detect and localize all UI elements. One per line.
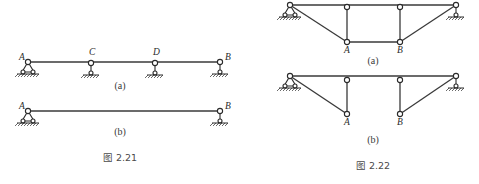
member-B-R bbox=[400, 76, 456, 114]
hinge-node-T1 bbox=[344, 77, 349, 82]
fig-2-22-sub-a: AB(a) bbox=[277, 2, 464, 67]
hinge-node-B bbox=[217, 108, 222, 113]
hinge-node-D bbox=[152, 60, 157, 65]
subfigure-label: (a) bbox=[367, 55, 378, 67]
figure-caption: 图 2.22 bbox=[356, 160, 390, 171]
hinge-node-A bbox=[344, 39, 349, 44]
structural-diagram: ACDB(a)AB(b)图 2.21AB(a)AB(b)图 2.22 bbox=[0, 0, 479, 184]
hinge-node-A bbox=[344, 111, 349, 116]
hinge-node-C bbox=[88, 60, 93, 65]
hinge-node-T2 bbox=[397, 77, 402, 82]
node-label-A: A bbox=[18, 52, 25, 62]
node-label-B: B bbox=[225, 101, 231, 111]
node-label-B: B bbox=[225, 52, 231, 62]
subfigure-label: (a) bbox=[114, 80, 125, 92]
hinge-node-A bbox=[25, 59, 30, 64]
fig-2-21-sub-a: ACDB(a) bbox=[15, 47, 231, 92]
node-label-C: C bbox=[89, 47, 96, 57]
member-B-R bbox=[400, 5, 456, 42]
node-label-A: A bbox=[343, 117, 350, 127]
figure-caption: 图 2.21 bbox=[103, 152, 137, 163]
hinge-node-R bbox=[453, 2, 458, 7]
fig-2-21-sub-b: AB(b) bbox=[15, 101, 231, 138]
hinge-node-L bbox=[287, 2, 292, 7]
hinge-node-T2 bbox=[397, 4, 402, 9]
node-label-B: B bbox=[397, 117, 403, 127]
member-L-A bbox=[290, 76, 347, 114]
node-label-A: A bbox=[18, 101, 25, 111]
fig-2-21: ACDB(a)AB(b)图 2.21 bbox=[15, 47, 231, 163]
hinge-node-B bbox=[397, 111, 402, 116]
node-label-A: A bbox=[343, 45, 350, 55]
hinge-node-T1 bbox=[344, 4, 349, 9]
hinge-node-R bbox=[453, 73, 458, 78]
member-L-A bbox=[290, 5, 347, 42]
hinge-node-B bbox=[217, 59, 222, 64]
fig-2-22-sub-b: AB(b) bbox=[277, 73, 464, 146]
subfigure-label: (b) bbox=[367, 134, 379, 146]
subfigure-label: (b) bbox=[114, 126, 126, 138]
node-label-D: D bbox=[152, 47, 160, 57]
hinge-node-A bbox=[25, 108, 30, 113]
hinge-node-B bbox=[397, 39, 402, 44]
node-label-B: B bbox=[397, 45, 403, 55]
hinge-node-L bbox=[287, 73, 292, 78]
fig-2-22: AB(a)AB(b)图 2.22 bbox=[277, 2, 464, 171]
